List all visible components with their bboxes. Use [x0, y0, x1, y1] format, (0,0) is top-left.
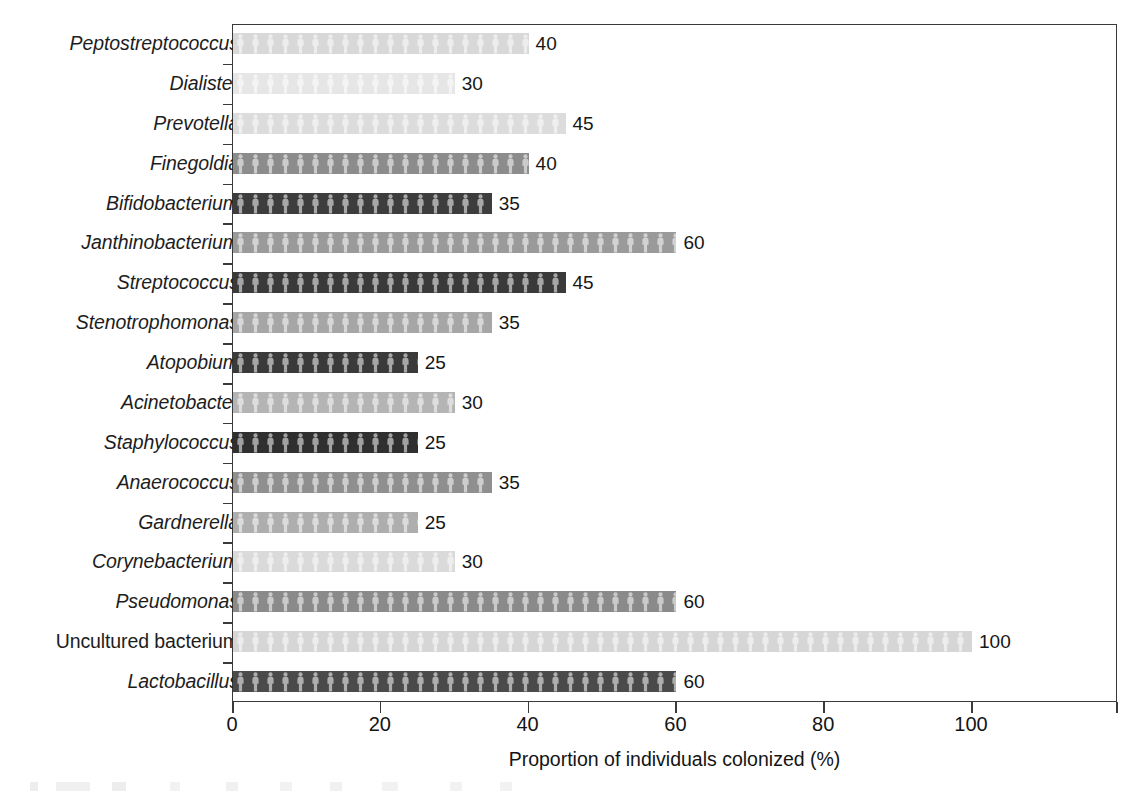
bar-row: Dialister30: [0, 64, 1139, 102]
category-label: Pseudomonas: [0, 582, 239, 620]
y-tick: [223, 223, 233, 225]
y-tick: [223, 184, 233, 186]
y-tick: [223, 662, 233, 664]
bar-value-label: 25: [425, 432, 446, 453]
category-label: Uncultured bacterium: [0, 622, 239, 660]
x-tick: [380, 702, 382, 713]
bar-fill: [233, 153, 529, 174]
bar-value-label: 45: [573, 113, 594, 134]
x-tick: [232, 702, 234, 713]
y-tick: [223, 144, 233, 146]
category-label: Bifidobacterium: [0, 184, 239, 222]
y-tick: [223, 622, 233, 624]
bar-row: Stenotrophomonas35: [0, 303, 1139, 341]
y-axis-ticks: [232, 24, 242, 702]
x-tick-label: 80: [812, 713, 834, 736]
bar-value-label: 60: [683, 591, 704, 612]
x-tick: [675, 702, 677, 713]
x-tick-label: 0: [226, 713, 237, 736]
bar-value-label: 25: [425, 512, 446, 533]
bar-fill: [233, 73, 455, 94]
category-label: Dialister: [0, 64, 239, 102]
person-pictogram-texture: [233, 193, 492, 214]
x-axis-tick-labels: 020406080100: [0, 713, 1139, 743]
person-pictogram-texture: [233, 73, 455, 94]
bar-value-label: 30: [462, 392, 483, 413]
y-tick: [223, 64, 233, 66]
bar-row: Corynebacterium30: [0, 542, 1139, 580]
bar-row: Peptostreptococcus40: [0, 24, 1139, 62]
bar-row: Bifidobacterium35: [0, 184, 1139, 222]
person-pictogram-texture: [233, 232, 676, 253]
x-tick: [971, 702, 973, 713]
category-label: Streptococcus: [0, 263, 239, 301]
y-tick: [223, 303, 233, 305]
person-pictogram-texture: [233, 352, 418, 373]
x-tick-label: 100: [954, 713, 987, 736]
bar-fill: [233, 193, 492, 214]
x-tick-label: 60: [664, 713, 686, 736]
bar-value-label: 30: [462, 551, 483, 572]
x-axis-title: Proportion of individuals colonized (%): [232, 748, 1117, 771]
bar-value-label: 35: [499, 312, 520, 333]
bar-fill: [233, 591, 676, 612]
bar-value-label: 45: [573, 272, 594, 293]
x-tick: [823, 702, 825, 713]
bar-value-label: 40: [536, 153, 557, 174]
category-label: Staphylococcus: [0, 423, 239, 461]
category-label: Janthinobacterium: [0, 223, 239, 261]
bar-value-label: 35: [499, 193, 520, 214]
bar-value-label: 30: [462, 73, 483, 94]
person-pictogram-texture: [233, 272, 566, 293]
bar-row: Anaerococcus35: [0, 463, 1139, 501]
person-pictogram-texture: [233, 551, 455, 572]
bar-fill: [233, 312, 492, 333]
bar-row: Staphylococcus25: [0, 423, 1139, 461]
bar-fill: [233, 113, 566, 134]
person-pictogram-texture: [233, 312, 492, 333]
person-pictogram-texture: [233, 113, 566, 134]
bar-fill: [233, 472, 492, 493]
y-tick: [223, 463, 233, 465]
y-tick: [223, 383, 233, 385]
bar-fill: [233, 352, 418, 373]
person-pictogram-texture: [233, 591, 676, 612]
scan-artifact: [30, 782, 550, 791]
person-pictogram-texture: [233, 512, 418, 533]
category-label: Gardnerella: [0, 503, 239, 541]
bar-fill: [233, 232, 676, 253]
x-tick: [528, 702, 530, 713]
bar-row: Acinetobacter30: [0, 383, 1139, 421]
bar-row: Pseudomonas60: [0, 582, 1139, 620]
person-pictogram-texture: [233, 432, 418, 453]
person-pictogram-texture: [233, 671, 676, 692]
bar-fill: [233, 33, 529, 54]
y-tick: [223, 542, 233, 544]
y-tick: [223, 104, 233, 106]
bar-value-label: 40: [536, 33, 557, 54]
x-minor-tick: [1116, 702, 1118, 713]
person-pictogram-texture: [233, 472, 492, 493]
person-pictogram-texture: [233, 153, 529, 174]
bar-row: Gardnerella25: [0, 503, 1139, 541]
bar-value-label: 60: [683, 671, 704, 692]
bar-fill: [233, 272, 566, 293]
bar-row: Janthinobacterium60: [0, 223, 1139, 261]
y-tick: [223, 503, 233, 505]
y-tick: [223, 423, 233, 425]
x-tick-label: 40: [516, 713, 538, 736]
category-label: Prevotella: [0, 104, 239, 142]
bar-value-label: 35: [499, 472, 520, 493]
category-label: Atopobium: [0, 343, 239, 381]
bar-fill: [233, 551, 455, 572]
y-tick: [223, 343, 233, 345]
person-pictogram-texture: [233, 392, 455, 413]
bar-fill: [233, 512, 418, 533]
bar-row: Uncultured bacterium100: [0, 622, 1139, 660]
bar-fill: [233, 631, 972, 652]
bar-rows: Peptostreptococcus40Dialister30Prevotell…: [0, 24, 1139, 702]
bar-value-label: 25: [425, 352, 446, 373]
bar-fill: [233, 671, 676, 692]
bar-row: Lactobacillus60: [0, 662, 1139, 700]
bar-fill: [233, 432, 418, 453]
